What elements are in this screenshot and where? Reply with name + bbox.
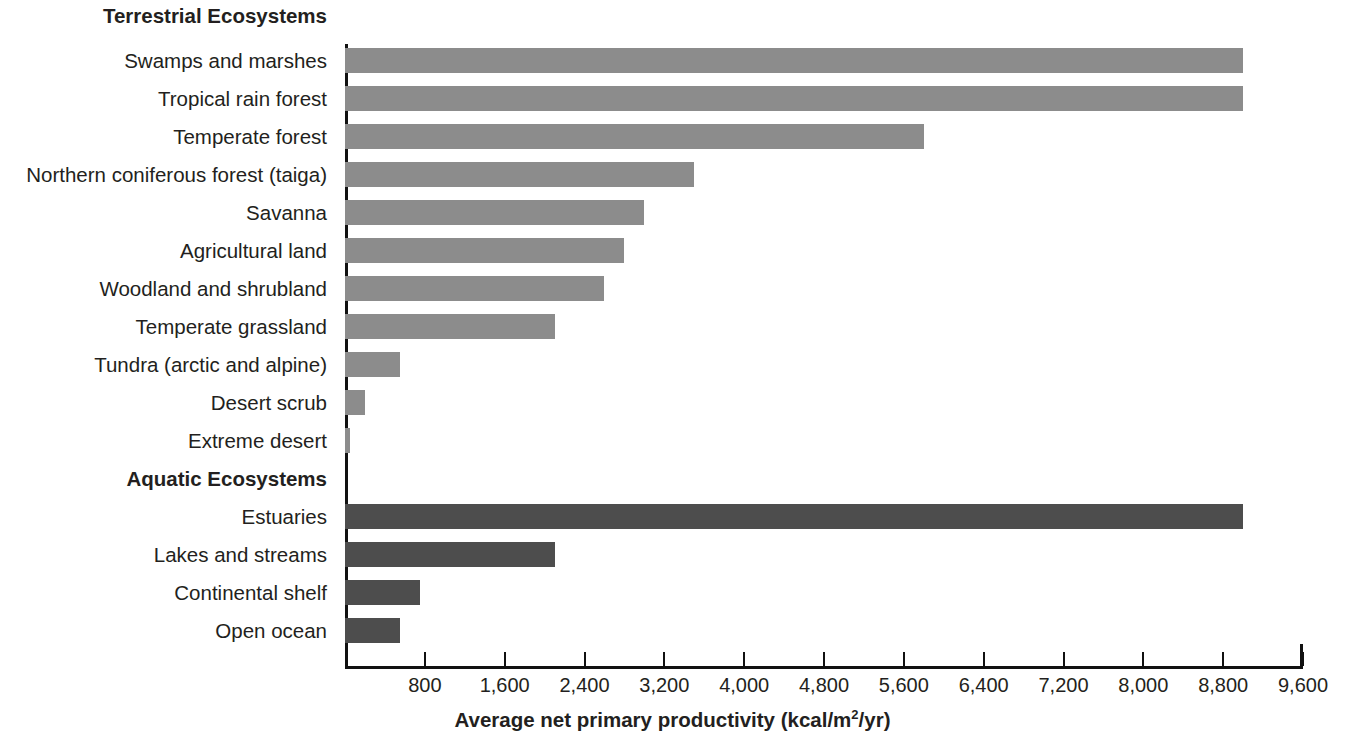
bar (345, 504, 1243, 529)
category-label: Temperate grassland (136, 317, 327, 338)
x-axis-title-exponent: 2 (851, 707, 858, 722)
bar (345, 428, 350, 453)
category-label: Swamps and marshes (124, 51, 327, 72)
x-axis-tick-label: 4,800 (799, 674, 849, 697)
category-label: Continental shelf (174, 583, 327, 604)
x-axis-tick (903, 652, 905, 666)
bar (345, 124, 924, 149)
category-label: Lakes and streams (154, 545, 327, 566)
category-label: Estuaries (242, 507, 327, 528)
section-header-terrestrial: Terrestrial Ecosystems (103, 6, 327, 27)
bar (345, 580, 420, 605)
x-axis-tick (1063, 652, 1065, 666)
x-axis-tick (823, 652, 825, 666)
x-axis-tick-label: 9,600 (1278, 674, 1328, 697)
x-axis-tick-label: 6,400 (959, 674, 1009, 697)
x-axis-tick (1302, 652, 1304, 666)
x-axis-tick (1142, 652, 1144, 666)
category-label-column: Terrestrial EcosystemsSwamps and marshes… (0, 0, 336, 680)
horizontal-bar-chart: Terrestrial EcosystemsSwamps and marshes… (0, 0, 1345, 750)
x-axis-tick (1222, 652, 1224, 666)
x-axis-tick-label: 800 (408, 674, 441, 697)
plot-area: 8001,6002,4003,2004,0004,8005,6006,4007,… (345, 44, 1303, 666)
bar (345, 276, 604, 301)
category-label: Savanna (246, 203, 327, 224)
x-axis-line (345, 666, 1303, 669)
x-axis-tick (584, 652, 586, 666)
bar (345, 352, 400, 377)
category-label: Tundra (arctic and alpine) (94, 355, 327, 376)
x-axis-title: Average net primary productivity (kcal/m… (0, 707, 1345, 732)
bar (345, 238, 624, 263)
category-label: Temperate forest (173, 127, 327, 148)
category-label: Northern coniferous forest (taiga) (26, 165, 327, 186)
x-axis-tick-label: 7,200 (1038, 674, 1088, 697)
x-axis-tick (663, 652, 665, 666)
x-axis-tick-label: 4,000 (719, 674, 769, 697)
x-axis-tick-label: 1,600 (480, 674, 530, 697)
x-axis-tick (424, 652, 426, 666)
x-axis-tick-label: 5,600 (879, 674, 929, 697)
x-axis-tick-label: 8,800 (1198, 674, 1248, 697)
category-label: Tropical rain forest (158, 89, 327, 110)
bar (345, 390, 365, 415)
bar (345, 200, 644, 225)
x-axis-left-cap (345, 644, 348, 669)
x-axis-tick-label: 8,000 (1118, 674, 1168, 697)
category-label: Open ocean (215, 621, 327, 642)
category-label: Woodland and shrubland (99, 279, 327, 300)
section-header-aquatic: Aquatic Ecosystems (126, 469, 327, 490)
category-label: Desert scrub (211, 393, 327, 414)
x-axis-tick (983, 652, 985, 666)
x-axis-tick-label: 3,200 (639, 674, 689, 697)
bar (345, 314, 555, 339)
x-axis-title-after: /yr) (859, 708, 891, 731)
bar (345, 86, 1243, 111)
bar (345, 618, 400, 643)
x-axis-title-before: Average net primary productivity (kcal/m (455, 708, 852, 731)
x-axis-tick (743, 652, 745, 666)
bar (345, 162, 694, 187)
x-axis-tick (504, 652, 506, 666)
category-label: Agricultural land (180, 241, 327, 262)
bar (345, 48, 1243, 73)
x-axis-tick-label: 2,400 (559, 674, 609, 697)
bar (345, 542, 555, 567)
category-label: Extreme desert (188, 431, 327, 452)
